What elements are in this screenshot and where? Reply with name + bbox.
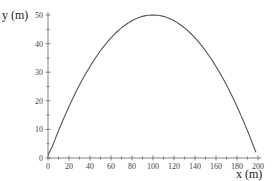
y-tick-label: 40 — [35, 40, 43, 49]
x-tick-label: 60 — [107, 162, 115, 171]
x-tick-label: 100 — [147, 162, 159, 171]
x-axis-label: x (m) — [236, 167, 262, 181]
y-tick-label: 10 — [35, 125, 43, 134]
x-tick-label: 80 — [128, 162, 136, 171]
x-tick-label: 40 — [86, 162, 94, 171]
y-tick-label: 20 — [35, 97, 43, 106]
y-tick-label: 0 — [39, 154, 43, 163]
trajectory-chart: 02040608010012014016018020001020304050 x… — [0, 0, 278, 181]
x-tick-label: 160 — [210, 162, 222, 171]
x-tick-label: 140 — [189, 162, 201, 171]
x-tick-label: 20 — [65, 162, 73, 171]
y-tick-label: 30 — [35, 68, 43, 77]
y-axis-label: y (m) — [2, 8, 28, 22]
trajectory-curve — [48, 15, 256, 155]
y-tick-label: 50 — [35, 11, 43, 20]
x-tick-label: 120 — [168, 162, 180, 171]
x-tick-label: 0 — [46, 162, 50, 171]
